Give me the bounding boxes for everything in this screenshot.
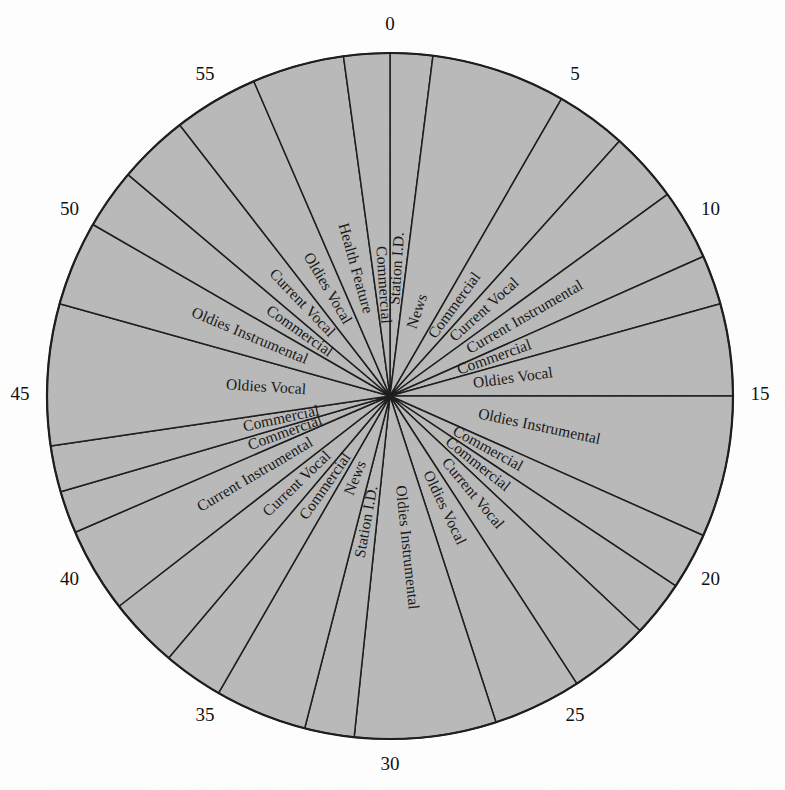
minute-tick-label: 35 <box>196 704 215 725</box>
minute-tick-label: 10 <box>701 198 720 219</box>
minute-tick-label: 20 <box>701 568 720 589</box>
wedge-group <box>47 53 733 739</box>
minute-tick-label: 15 <box>751 383 770 404</box>
programming-clock-figure: Station I.D.NewsCommercialCurrent VocalC… <box>0 0 785 790</box>
minute-tick-label: 55 <box>196 63 215 84</box>
clock-diagram: Station I.D.NewsCommercialCurrent VocalC… <box>0 0 785 790</box>
minute-tick-label: 30 <box>381 753 400 774</box>
minute-tick-label: 45 <box>11 383 30 404</box>
minute-tick-label: 50 <box>60 198 79 219</box>
minute-tick-label: 25 <box>566 704 585 725</box>
minute-tick-label: 5 <box>570 63 580 84</box>
minute-tick-label: 40 <box>60 568 79 589</box>
minute-tick-label: 0 <box>385 13 395 34</box>
